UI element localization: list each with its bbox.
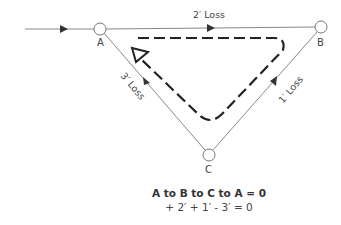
loop-path — [138, 38, 284, 120]
flow-arrow-a-b-icon — [207, 24, 215, 32]
edge-a-b-label: 2′ Loss — [193, 9, 225, 20]
edge-a-c — [104, 33, 205, 150]
node-b — [315, 21, 327, 33]
edge-a-c-label: 3′ Loss — [118, 70, 147, 102]
node-b-label: B — [317, 37, 324, 48]
equation-title: A to B to C to A = 0 — [0, 187, 341, 199]
node-a — [94, 23, 106, 35]
equation: + 2′ + 1′ - 3′ = 0 — [0, 201, 341, 213]
edge-b-c-label: 1′ Loss — [276, 74, 305, 106]
flow-arrow-a-c-icon — [143, 77, 150, 85]
node-c-label: C — [205, 164, 212, 175]
node-a-label: A — [97, 37, 104, 48]
inflow-arrow-icon — [60, 25, 68, 33]
node-c — [203, 149, 215, 161]
edge-b-c — [213, 32, 317, 150]
loop-arrow-icon — [132, 48, 148, 62]
